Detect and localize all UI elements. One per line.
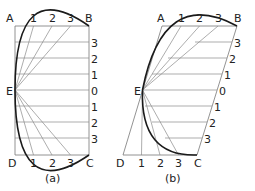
ray-bottom-2 [15,90,52,155]
label-b-top-1: 1 [178,12,185,25]
label-a-bottom-1: 1 [30,157,37,170]
label-a-corner-a: A [6,12,14,25]
label-b-bottom-2: 2 [157,157,164,170]
label-a-bottom-2: 2 [49,157,56,170]
label-b-corner-d: D [116,157,124,170]
label-a-side-l2: 2 [91,117,98,130]
label-b-corner-e: E [134,85,141,98]
ray-bottom-3 [15,90,71,155]
label-a-corner-e: E [6,85,13,98]
label-a-side-l3: 3 [91,133,98,146]
label-b-top-3: 3 [215,12,222,25]
label-a-top-3: 3 [67,12,74,25]
label-b-side-u3: 3 [234,37,241,50]
label-b-bottom-1: 1 [138,157,145,170]
label-a-corner-b: B [85,12,93,25]
label-a-top-1: 1 [30,12,37,25]
panel-a: A 1 2 3 B 3 2 1 0 1 2 3 E D 1 2 3 C (a) [6,10,98,185]
label-b-side-l1: 1 [214,101,221,114]
label-b-corner-c: C [194,157,202,170]
label-a-side-u1: 1 [91,69,98,82]
label-a-side-0: 0 [91,85,98,98]
label-a-side-u2: 2 [91,53,98,66]
label-a-side-l1: 1 [91,101,98,114]
ray-bottom-1 [15,90,34,155]
label-b-side-u1: 1 [224,69,231,82]
label-a-corner-c: C [86,157,94,170]
label-a-top-2: 2 [49,12,56,25]
caption-b: (b) [165,172,181,185]
label-b-side-l2: 2 [209,117,216,130]
label-b-bottom-3: 3 [175,157,182,170]
label-a-bottom-3: 3 [67,157,74,170]
label-b-side-l3: 3 [204,133,211,146]
panel-b: A 1 2 3 B 3 2 1 0 1 2 3 E D 1 2 3 C (b) [116,12,242,185]
parabola-construction-diagram: A 1 2 3 B 3 2 1 0 1 2 3 E D 1 2 3 C (a) [0,0,255,191]
label-b-corner-a: A [157,12,165,25]
label-b-side-u2: 2 [229,53,236,66]
label-b-top-2: 2 [196,12,203,25]
caption-a: (a) [45,172,60,185]
label-b-side-0: 0 [219,85,226,98]
label-b-corner-b: B [234,12,242,25]
edge-bc [197,26,237,155]
label-a-side-u3: 3 [91,37,98,50]
label-a-corner-d: D [8,157,16,170]
